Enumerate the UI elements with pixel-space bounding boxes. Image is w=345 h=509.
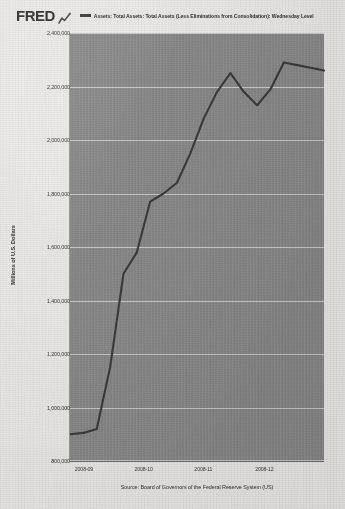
fred-logo: FRED (16, 8, 55, 23)
series-polyline (70, 62, 324, 434)
y-tick-label: 1,600,000 (6, 244, 70, 250)
y-tick-label: 2,000,000 (6, 137, 70, 143)
legend-series-label: Assets: Total Assets: Total Assets (Less… (94, 13, 314, 19)
y-tick-label: 1,200,000 (6, 351, 70, 357)
x-tick-label: 2008-10 (134, 466, 152, 472)
chart-legend: Assets: Total Assets: Total Assets (Less… (80, 13, 314, 19)
x-axis-line (70, 461, 324, 462)
y-tick-label: 1,000,000 (6, 405, 70, 411)
y-tick-label: 1,800,000 (6, 191, 70, 197)
series-line-chart (70, 33, 324, 461)
y-tick-label: 1,400,000 (6, 298, 70, 304)
y-tick-label: 800,000 (6, 458, 70, 464)
source-note: Source: Board of Governors of the Federa… (70, 484, 324, 490)
y-tick-label: 2,400,000 (6, 30, 70, 36)
y-axis-ticks: 2,400,0002,200,0002,000,0001,800,0001,60… (0, 0, 70, 509)
fred-chart-page: FRED Assets: Total Assets: Total Assets … (0, 0, 345, 509)
y-tick-label: 2,200,000 (6, 84, 70, 90)
x-tick-label: 2008-11 (194, 466, 212, 472)
legend-line-swatch-icon (80, 14, 91, 17)
x-tick-label: 2008-12 (255, 466, 273, 472)
x-tick-label: 2008-09 (75, 466, 93, 472)
chart-header: FRED Assets: Total Assets: Total Assets … (0, 4, 345, 26)
chart-squiggle-icon (58, 11, 72, 24)
plot-area (70, 33, 324, 461)
chart-figure: Millions of U.S. Dollars 2,400,0002,200,… (0, 0, 345, 509)
